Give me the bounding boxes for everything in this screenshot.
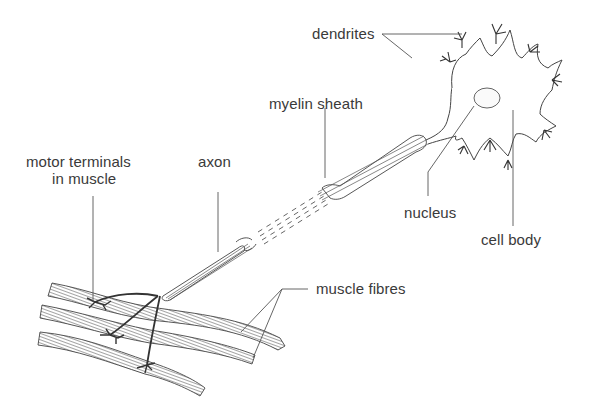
axon-break-dashes <box>258 192 328 244</box>
label-dendrites: dendrites <box>312 25 375 42</box>
nucleus <box>474 88 500 108</box>
label-muscle-fibres: muscle fibres <box>316 280 406 297</box>
axon-lower-segment <box>162 238 256 301</box>
leader-dendrites <box>382 34 462 58</box>
label-cell-body: cell body <box>481 231 541 248</box>
label-axon: axon <box>198 153 231 170</box>
neuron-diagram <box>0 0 590 412</box>
muscle-fibres <box>38 283 285 396</box>
label-nucleus: nucleus <box>404 204 456 221</box>
label-motor-terminals-line1: motor terminals <box>26 153 131 170</box>
cell-body <box>452 30 562 160</box>
label-myelin-sheath: myelin sheath <box>269 95 363 112</box>
label-motor-terminals-line2: in muscle <box>52 170 116 187</box>
